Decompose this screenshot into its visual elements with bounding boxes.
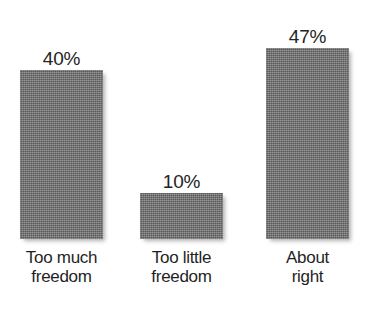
plot-area: 40% Too much freedom 10% Too little free…: [0, 0, 371, 313]
bar-category-label-too-little-freedom: Too little freedom: [118, 248, 245, 286]
category-line-1: Too little: [118, 248, 245, 267]
bar-category-label-about-right: About right: [244, 248, 371, 286]
category-line-1: Too much: [0, 248, 125, 267]
bar-group-about-right: 47% About right: [266, 0, 349, 313]
bar-value-label-too-little-freedom: 10%: [140, 171, 223, 193]
bar-chart: 40% Too much freedom 10% Too little free…: [0, 0, 371, 313]
bar-too-much-freedom: [20, 70, 103, 239]
bar-value-label-too-much-freedom: 40%: [20, 48, 103, 70]
category-line-2: freedom: [118, 267, 245, 286]
category-line-2: right: [244, 267, 371, 286]
bar-value-label-about-right: 47%: [266, 26, 349, 48]
bar-category-label-too-much-freedom: Too much freedom: [0, 248, 125, 286]
bar-group-too-much-freedom: 40% Too much freedom: [20, 0, 103, 313]
category-line-2: freedom: [0, 267, 125, 286]
bar-about-right: [266, 48, 349, 239]
category-line-1: About: [244, 248, 371, 267]
bar-too-little-freedom: [140, 193, 223, 239]
bar-group-too-little-freedom: 10% Too little freedom: [140, 0, 223, 313]
